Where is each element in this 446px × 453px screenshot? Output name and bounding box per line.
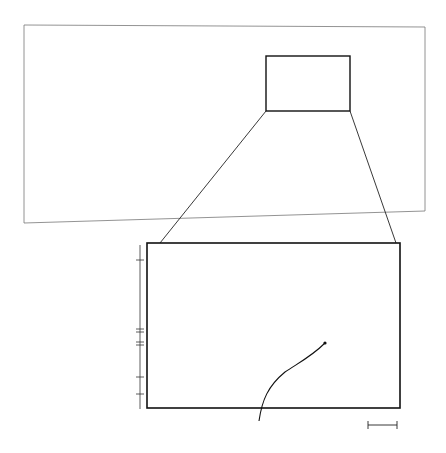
connector-left: [160, 111, 266, 243]
layer-axis: [136, 245, 144, 409]
pointer-curve: [259, 343, 325, 421]
pointer-dot: [323, 341, 326, 344]
connector-right: [350, 111, 396, 243]
scale-bar: [368, 421, 397, 429]
zoom-region-box: [266, 56, 350, 111]
mesh-figure: [0, 0, 446, 453]
